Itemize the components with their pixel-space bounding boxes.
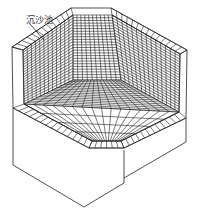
left-wall-top-cap bbox=[12, 47, 23, 50]
base-right-edge bbox=[124, 118, 186, 178]
tank-mesh bbox=[12, 8, 187, 148]
label-leader-line bbox=[30, 24, 44, 40]
tank-label: 沉沙池 bbox=[26, 13, 53, 26]
sedimentation-tank-diagram bbox=[0, 0, 200, 219]
right-wall-top-cap bbox=[180, 50, 187, 54]
